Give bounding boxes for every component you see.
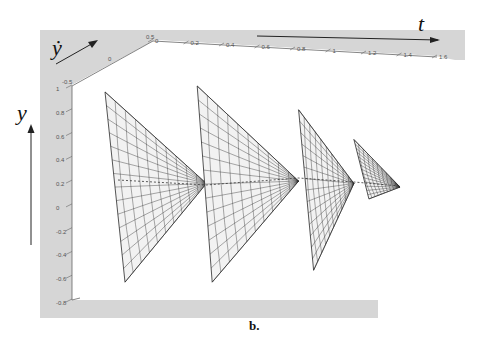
t-tick-label: 1.6 (439, 54, 448, 60)
t-tick-label: 0.2 (191, 40, 200, 46)
surface-plot: 00.20.40.60.811.21.41.6 10.80.60.40.20-0… (0, 0, 492, 345)
y-tick-label: -0.4 (56, 252, 67, 258)
y-tick-label: 0.2 (56, 181, 65, 187)
t-tick-label: 1.2 (368, 50, 377, 56)
y-axis-label: y (15, 100, 27, 125)
t-tick-label: 1.4 (404, 52, 413, 58)
t-axis-label: t (418, 11, 425, 36)
y-tick-label: 0.4 (56, 157, 65, 163)
y-tick-label: -0.6 (56, 276, 67, 282)
t-tick-label: 0.4 (226, 42, 235, 48)
y-tick-label: -0.2 (56, 229, 67, 235)
y-tick-label: -0.8 (56, 300, 67, 306)
t-tick-label: 0.8 (297, 46, 306, 52)
y-tick-label: 0.8 (56, 110, 65, 116)
y-arrow-head (28, 124, 35, 133)
figure-caption: b. (249, 318, 259, 334)
ydot-tick-label: -0.5 (62, 79, 73, 85)
ydot-tick-label: 0.5 (146, 34, 155, 40)
ydot-axis-label: ẏ (50, 35, 62, 60)
y-tick-label: 0.6 (56, 134, 65, 140)
t-tick-label: 0.6 (262, 44, 271, 50)
